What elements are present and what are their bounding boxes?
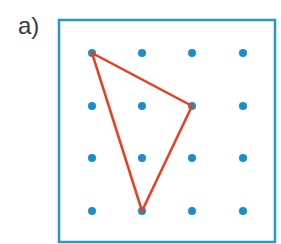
grid-dot — [138, 154, 146, 162]
grid-dot — [188, 207, 196, 215]
grid-dot — [88, 154, 96, 162]
grid-dot — [138, 102, 146, 110]
triangle-shape — [92, 53, 192, 211]
grid-dot — [88, 207, 96, 215]
grid-dot — [239, 154, 247, 162]
grid-dot — [239, 49, 247, 57]
grid-dot — [138, 49, 146, 57]
grid-dot — [239, 207, 247, 215]
grid-dot — [239, 102, 247, 110]
grid-dot — [188, 49, 196, 57]
grid-dots — [88, 49, 247, 215]
grid-dot — [188, 154, 196, 162]
dot-grid-diagram — [0, 0, 281, 244]
grid-dot — [88, 102, 96, 110]
